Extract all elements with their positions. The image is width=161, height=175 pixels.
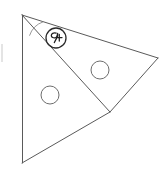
figure-canvas: Hand-drawn geometry sketch 94 circled ha… bbox=[0, 0, 161, 175]
geometry-figure-svg bbox=[0, 0, 161, 175]
figure-background bbox=[0, 0, 161, 175]
